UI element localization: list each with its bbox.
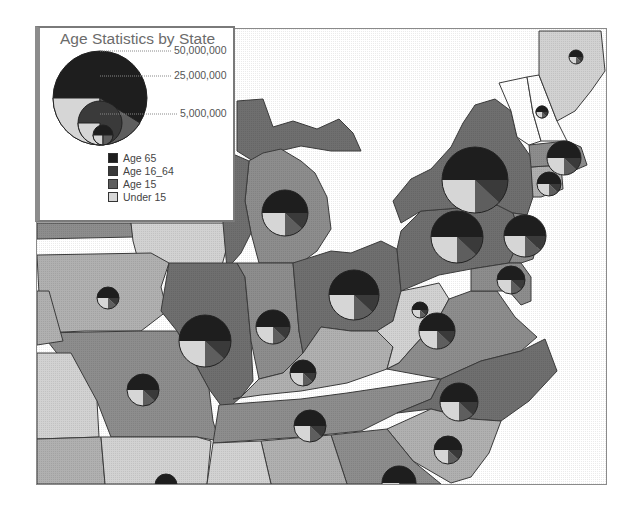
legend-item-age-16-64: Age 16_64 — [108, 165, 174, 177]
pie-symbol-ohio[interactable] — [329, 270, 379, 320]
legend-item-age-15: Age 15 — [108, 178, 156, 190]
pie-symbol-pennsylvania[interactable] — [431, 211, 483, 263]
pie-symbol-missouri[interactable] — [127, 374, 159, 406]
legend-label: Age 15 — [123, 178, 156, 190]
swatch-age-65 — [108, 153, 118, 163]
pie-symbol-new-york[interactable] — [442, 147, 508, 213]
size-label-50m: 50,000,000 — [174, 44, 227, 56]
pie-symbol-connecticut[interactable] — [537, 172, 561, 196]
size-label-25m: 25,000,000 — [174, 69, 227, 81]
pie-symbol-south-carolina[interactable] — [434, 436, 462, 464]
pie-symbol-north-carolina[interactable] — [440, 383, 478, 421]
legend-panel[interactable]: Age Statistics by State 50,000,000 25,00… — [35, 26, 235, 222]
size-scale-circles — [53, 51, 147, 145]
swatch-under-15 — [108, 192, 118, 202]
size-label-5m: 5,000,000 — [180, 107, 227, 119]
legend-item-under-15: Under 15 — [108, 191, 166, 203]
legend-item-age-65: Age 65 — [108, 152, 156, 164]
pie-symbol-new-hampshire[interactable] — [536, 106, 548, 118]
pie-symbol-west-virginia[interactable] — [412, 302, 428, 318]
swatch-age-15 — [108, 179, 118, 189]
pie-symbol-kentucky[interactable] — [290, 360, 316, 386]
pie-symbol-indiana[interactable] — [256, 310, 290, 344]
pie-symbol-maine[interactable] — [569, 50, 583, 64]
pie-symbol-tennessee[interactable] — [294, 410, 326, 442]
legend-label: Under 15 — [123, 191, 166, 203]
swatch-age-16-64 — [108, 166, 118, 176]
pie-symbol-new-jersey[interactable] — [504, 215, 546, 257]
pie-symbol-maryland[interactable] — [497, 266, 525, 294]
legend-label: Age 65 — [123, 152, 156, 164]
pie-symbol-massachusetts[interactable] — [547, 141, 581, 175]
pie-symbol-iowa[interactable] — [97, 287, 119, 309]
legend-label: Age 16_64 — [123, 165, 174, 177]
pie-symbol-virginia[interactable] — [419, 313, 455, 349]
pie-symbol-illinois[interactable] — [179, 315, 231, 367]
pie-symbol-michigan[interactable] — [262, 190, 308, 236]
